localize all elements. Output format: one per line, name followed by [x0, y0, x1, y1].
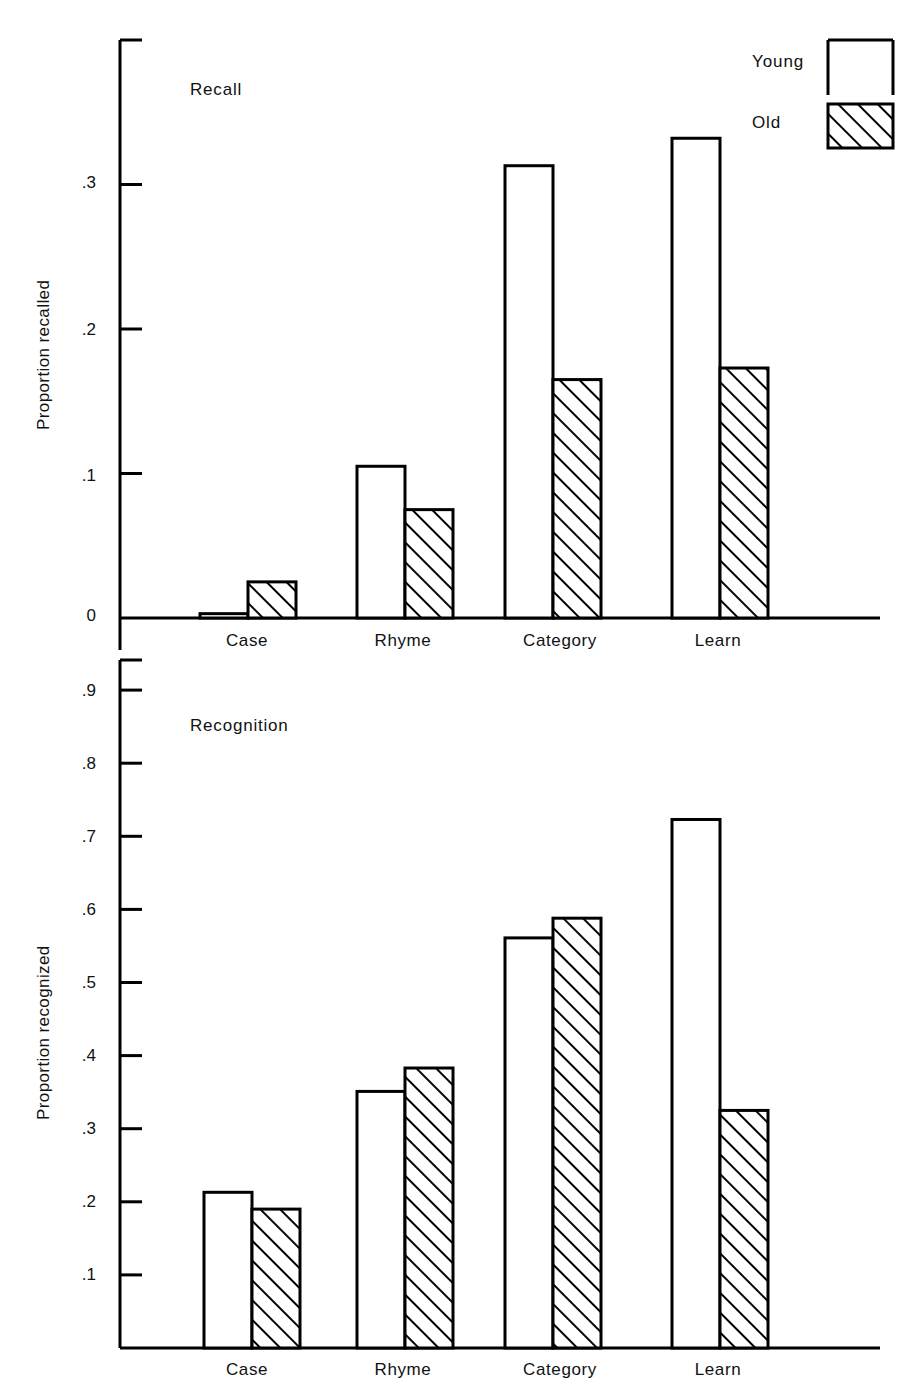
panel-title-recognition: Recognition	[190, 716, 289, 736]
bar-recognition-case-old	[252, 1209, 300, 1348]
x-tick-label-recognition-category: Category	[497, 1360, 623, 1380]
figure-root: Recall Proportion recalled 0 .1 .2 .3 Ca…	[0, 0, 923, 1397]
x-tick-label-recognition-learn: Learn	[663, 1360, 773, 1380]
chart-canvas	[0, 0, 923, 1397]
bar-recognition-category-old	[553, 918, 601, 1348]
y-tick-label-recognition-1: .1	[58, 1265, 96, 1285]
bar-recall-case-old	[248, 582, 296, 618]
x-tick-label-recognition-case: Case	[192, 1360, 302, 1380]
bar-recognition-rhyme-young	[357, 1091, 405, 1348]
y-axis-title-recall: Proportion recalled	[34, 280, 54, 430]
y-tick-label-recognition-8: .8	[58, 754, 96, 774]
panel-title-recall: Recall	[190, 80, 242, 100]
y-tick-label-recall-2: .2	[58, 320, 96, 340]
x-tick-label-recall-learn: Learn	[663, 631, 773, 651]
y-tick-label-recognition-4: .4	[58, 1046, 96, 1066]
y-axis-title-recognition: Proportion recognized	[34, 945, 54, 1120]
legend-label-old: Old	[752, 113, 781, 133]
bar-recognition-case-young	[204, 1192, 252, 1348]
bar-recall-rhyme-young	[357, 466, 405, 618]
bar-recognition-learn-young	[672, 819, 720, 1348]
x-tick-label-recall-category: Category	[497, 631, 623, 651]
legend-swatch-young	[828, 40, 893, 95]
bar-recognition-rhyme-old	[405, 1068, 453, 1348]
y-tick-label-recall-3: .3	[58, 173, 96, 193]
bar-recognition-category-young	[505, 938, 553, 1348]
y-tick-label-recognition-2: .2	[58, 1192, 96, 1212]
y-tick-label-recall-0: 0	[58, 606, 96, 626]
bar-recall-learn-young	[672, 138, 720, 618]
y-tick-label-recognition-5: .5	[58, 973, 96, 993]
bar-recall-category-old	[553, 380, 601, 618]
x-tick-label-recognition-rhyme: Rhyme	[348, 1360, 458, 1380]
y-tick-label-recall-1: .1	[58, 466, 96, 486]
y-tick-label-recognition-3: .3	[58, 1119, 96, 1139]
legend-label-young: Young	[752, 52, 804, 72]
x-tick-label-recall-rhyme: Rhyme	[348, 631, 458, 651]
y-tick-label-recognition-7: .7	[58, 827, 96, 847]
bar-recall-rhyme-old	[405, 510, 453, 618]
bar-recall-case-young	[200, 614, 248, 618]
bar-recall-category-young	[505, 166, 553, 618]
y-tick-label-recognition-9: .9	[58, 681, 96, 701]
bar-recall-learn-old	[720, 368, 768, 618]
x-tick-label-recall-case: Case	[192, 631, 302, 651]
y-tick-label-recognition-6: .6	[58, 900, 96, 920]
bar-recognition-learn-old	[720, 1110, 768, 1348]
legend-swatch-old	[828, 104, 893, 148]
